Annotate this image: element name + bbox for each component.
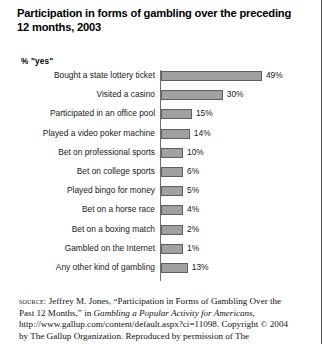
source-keyword: source: xyxy=(19,297,46,306)
bar-category-label: Played bingo for money xyxy=(0,185,155,196)
bar-category-label: Bought a state lottery ticket xyxy=(0,70,155,81)
bar-category-label: Participated in an office pool xyxy=(0,108,155,119)
bar xyxy=(161,129,190,139)
bar-row: Bet on a horse race4% xyxy=(0,204,311,224)
bar xyxy=(161,205,183,215)
bar xyxy=(161,109,192,119)
plot-area: Bought a state lottery ticket49%Visited … xyxy=(0,70,311,285)
bar-value-label: 13% xyxy=(192,262,209,273)
chart-figure: Participation in forms of gambling over … xyxy=(0,0,311,344)
bar-value-label: 30% xyxy=(227,89,244,100)
bar-row: Bet on college sports6% xyxy=(0,166,311,186)
source-work-title: Gambling a Popular Activity for American… xyxy=(94,308,255,318)
bar-row: Any other kind of gambling13% xyxy=(0,262,311,282)
bar-value-label: 14% xyxy=(194,128,211,139)
bar-value-label: 6% xyxy=(187,166,199,177)
figure-page: Participation in forms of gambling over … xyxy=(0,0,322,344)
bar xyxy=(161,225,183,235)
axis-caption: % "yes" xyxy=(21,57,53,66)
bar xyxy=(161,244,183,254)
bar-category-label: Gambled on the Internet xyxy=(0,243,155,254)
bar-value-label: 5% xyxy=(187,185,199,196)
bar-row: Played bingo for money5% xyxy=(0,185,311,205)
bar xyxy=(161,90,223,100)
chart-title: Participation in forms of gambling over … xyxy=(17,6,297,34)
bar-category-label: Bet on a boxing match xyxy=(0,224,155,235)
bar-row: Bought a state lottery ticket49% xyxy=(0,70,311,90)
bar-value-label: 2% xyxy=(187,224,199,235)
bar xyxy=(161,148,183,158)
bar-value-label: 4% xyxy=(187,204,199,215)
bar-value-label: 15% xyxy=(196,108,213,119)
bar-row: Bet on a boxing match2% xyxy=(0,224,311,244)
bar xyxy=(161,71,262,81)
bar-category-label: Bet on college sports xyxy=(0,166,155,177)
source-line-2: http://www.gallup.com/content/default.as… xyxy=(19,319,288,341)
bar-category-label: Any other kind of gambling xyxy=(0,262,155,273)
bar-row: Gambled on the Internet1% xyxy=(0,243,311,263)
bar-row: Participated in an office pool15% xyxy=(0,108,311,128)
bar-category-label: Visited a casino xyxy=(0,89,155,100)
bar xyxy=(161,167,183,177)
bar-category-label: Played a video poker machine xyxy=(0,128,155,139)
bar-row: Played a video poker machine14% xyxy=(0,128,311,148)
bar-category-label: Bet on professional sports xyxy=(0,147,155,158)
bar xyxy=(161,186,183,196)
bar-value-label: 1% xyxy=(187,243,199,254)
bar-row: Visited a casino30% xyxy=(0,89,311,109)
source-note: source: Jeffrey M. Jones, “Participation… xyxy=(19,296,297,342)
bar-category-label: Bet on a horse race xyxy=(0,204,155,215)
bar-value-label: 10% xyxy=(187,147,204,158)
bar-row: Bet on professional sports10% xyxy=(0,147,311,167)
bar xyxy=(161,263,188,273)
bar-value-label: 49% xyxy=(266,70,283,81)
